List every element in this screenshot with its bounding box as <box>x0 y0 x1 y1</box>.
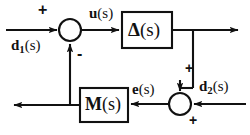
summing-junction-right <box>169 93 191 115</box>
block-m-label: M(s) <box>85 95 121 113</box>
sign-feedback-input: - <box>77 46 82 62</box>
sign-d2-input: + <box>189 113 197 127</box>
signal-d2-arg: (s) <box>213 78 229 94</box>
sign-delta-into-sum: + <box>185 61 193 75</box>
block-m-symbol: M <box>85 94 102 114</box>
block-diagram: Δ(s) M(s) u(s) e(s) d1(s) d2(s) + - + + <box>0 0 250 135</box>
signal-e-var: e <box>132 81 139 97</box>
signal-d1-arg: (s) <box>25 37 41 53</box>
signal-label-u: u(s) <box>89 6 113 21</box>
sign-d1-input: + <box>38 2 47 18</box>
diagram-canvas <box>0 0 250 135</box>
block-delta-symbol: Δ <box>128 19 140 40</box>
signal-label-d1: d1(s) <box>11 38 41 55</box>
block-m-arg: (s) <box>102 94 121 114</box>
block-delta-label: Δ(s) <box>128 20 160 39</box>
signal-label-e: e(s) <box>132 82 155 97</box>
signal-u-arg: (s) <box>97 5 113 21</box>
signal-e-arg: (s) <box>139 81 155 97</box>
summing-junction-left <box>59 19 81 41</box>
block-delta-arg: (s) <box>140 19 160 40</box>
signal-label-d2: d2(s) <box>199 79 229 96</box>
